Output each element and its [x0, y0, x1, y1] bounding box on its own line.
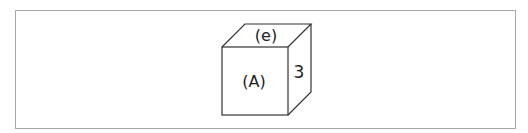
top-face-label: (e) [255, 26, 277, 45]
cube-diagram: (e) (A) 3 [0, 0, 528, 133]
right-face-label: 3 [294, 62, 305, 82]
front-face-label: (A) [242, 72, 265, 91]
